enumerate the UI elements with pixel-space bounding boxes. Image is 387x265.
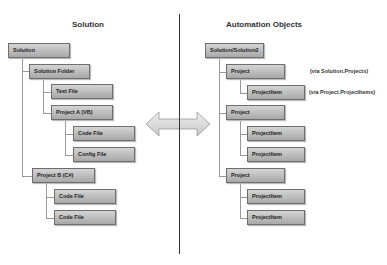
node-projectitem: ProjectItem bbox=[247, 147, 305, 162]
node-project-a: Project A (VB) bbox=[51, 105, 113, 120]
node-project: Project bbox=[226, 105, 285, 120]
node-project: Project bbox=[226, 64, 285, 79]
connector bbox=[43, 113, 51, 114]
node-projectitem: ProjectItem bbox=[247, 126, 305, 141]
connector bbox=[240, 120, 241, 155]
node-config-file: Config File bbox=[73, 147, 135, 162]
connector bbox=[240, 218, 247, 219]
node-solution-folder: Solution Folder bbox=[29, 64, 90, 79]
annotation-project-projectitems: (via Project.ProjectItems) bbox=[309, 89, 375, 95]
connector bbox=[46, 197, 54, 198]
connector bbox=[219, 59, 220, 177]
connector bbox=[43, 79, 44, 113]
node-code-file: Code File bbox=[54, 210, 116, 225]
connector bbox=[240, 134, 247, 135]
connector bbox=[219, 113, 226, 114]
connector bbox=[240, 183, 241, 218]
connector bbox=[240, 79, 241, 93]
node-projectitem: ProjectItem bbox=[247, 85, 305, 100]
node-project: Project bbox=[226, 168, 285, 183]
node-code-file: Code File bbox=[73, 126, 135, 141]
connector bbox=[22, 58, 23, 176]
node-solution2: Solution/Solution2 bbox=[205, 43, 264, 58]
node-projectitem: ProjectItem bbox=[247, 210, 305, 225]
node-code-file: Code File bbox=[54, 189, 116, 204]
connector bbox=[46, 218, 54, 219]
right-title: Automation Objects bbox=[226, 20, 302, 29]
connector bbox=[65, 134, 73, 135]
divider-overlay bbox=[179, 14, 180, 254]
connector bbox=[240, 197, 247, 198]
connector bbox=[240, 155, 247, 156]
connector bbox=[219, 176, 226, 177]
node-solution: Solution bbox=[8, 43, 70, 58]
connector bbox=[65, 155, 73, 156]
double-arrow-icon bbox=[145, 111, 211, 137]
connector bbox=[65, 120, 66, 155]
connector bbox=[46, 183, 47, 218]
connector bbox=[219, 72, 226, 73]
left-title: Solution bbox=[72, 20, 104, 29]
annotation-solution-projects: (via Solution.Projects) bbox=[310, 68, 368, 74]
connector bbox=[22, 176, 32, 177]
node-projectitem: ProjectItem bbox=[247, 189, 305, 204]
node-text-file: Text File bbox=[51, 84, 113, 99]
connector bbox=[43, 92, 51, 93]
node-project-b: Project B (C#) bbox=[32, 168, 95, 183]
connector bbox=[240, 93, 247, 94]
